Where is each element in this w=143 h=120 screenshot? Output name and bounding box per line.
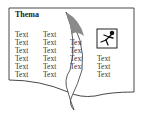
text-column-4: TextTextText <box>97 55 110 79</box>
text-column-3: TextTextTextText <box>70 39 82 71</box>
text-column-1: TextTextTextTextTextText <box>15 31 28 79</box>
text-column-2: TextTextTextTextTextText <box>43 31 56 79</box>
document-title: Thema <box>15 10 39 19</box>
